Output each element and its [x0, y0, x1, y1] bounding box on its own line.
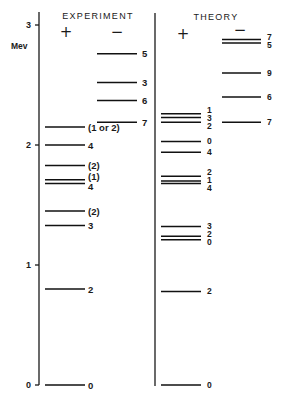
energy-level-diagram: EXPERIMENT THEORY + − + − Mev 0123 023(2…: [0, 0, 282, 399]
y-tick-label: 3: [26, 20, 31, 30]
energy-level-label: (2): [88, 206, 100, 217]
panel-title-experiment: EXPERIMENT: [62, 11, 134, 21]
energy-level-label: 0: [207, 380, 212, 390]
panel-title-theory: THEORY: [193, 12, 238, 22]
energy-level-label: 2: [207, 286, 212, 296]
energy-level-label: 3: [207, 221, 212, 231]
parity-sign-experiment-minus: −: [111, 23, 124, 41]
energy-level-label: 7: [267, 117, 272, 127]
y-tick-label: 0: [26, 380, 31, 390]
energy-level-label: (2): [88, 160, 100, 171]
parity-sign-theory-minus: −: [234, 21, 247, 39]
energy-level-label: 2: [88, 284, 93, 295]
energy-level-label: 0: [207, 136, 212, 146]
y-axis-unit-label: Mev: [11, 41, 28, 51]
energy-level-label: 0: [88, 380, 93, 391]
y-tick-label: 1: [26, 260, 31, 270]
energy-level-label: (1): [88, 171, 100, 182]
energy-level-label: (1 or 2): [88, 122, 120, 133]
parity-sign-theory-plus: +: [177, 25, 190, 43]
energy-level-label: 4: [88, 140, 94, 151]
energy-level-label: 7: [267, 32, 272, 42]
energy-level-label: 3: [88, 220, 93, 231]
energy-level-label: 2: [207, 167, 212, 177]
background: [0, 0, 282, 399]
energy-level-label: 4: [207, 147, 212, 157]
energy-level-label: 3: [142, 77, 147, 88]
energy-level-label: 9: [267, 68, 272, 78]
y-tick-label: 2: [26, 140, 31, 150]
energy-level-label: 6: [142, 95, 147, 106]
energy-level-label: 1: [207, 105, 212, 115]
energy-level-label: 6: [267, 92, 272, 102]
energy-level-label: 4: [88, 181, 94, 192]
energy-level-label: 5: [142, 48, 148, 59]
energy-level-label: 7: [142, 117, 147, 128]
parity-sign-experiment-plus: +: [60, 23, 73, 41]
